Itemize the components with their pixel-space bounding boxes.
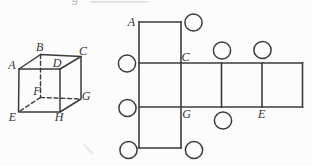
answer-circle — [185, 14, 202, 31]
cube-vertex-label-b: B — [36, 41, 43, 53]
cropped-text-artifact: g — [71, 0, 83, 6]
cube-vertex-label-e: E — [9, 111, 16, 123]
answer-circle — [119, 99, 136, 116]
scan-streak-artifact — [90, 1, 148, 3]
cube-vertex-label-d: D — [53, 57, 62, 69]
answer-circle — [214, 112, 231, 129]
net-corner-label-g: G — [182, 108, 191, 120]
cube-vertex-label-a: A — [8, 59, 15, 71]
textbook-figure: A B C D E F G H A C G E g — [0, 0, 312, 166]
cube-vertex-label-c: C — [79, 45, 87, 57]
cube-vertex-label-h: H — [55, 111, 64, 123]
net-corner-label-c: C — [181, 51, 189, 63]
net-corner-label-e: E — [258, 108, 265, 120]
cube-vertex-label-g: G — [82, 90, 91, 102]
answer-circle — [254, 41, 271, 58]
answer-circle — [185, 141, 202, 158]
cube-vertex-label-f: F — [33, 85, 40, 97]
cube-solid-edges — [19, 55, 82, 113]
cropped-glyph: g — [72, 0, 79, 6]
answer-circle — [213, 42, 230, 59]
answer-circle — [120, 141, 137, 158]
answer-circle — [118, 55, 135, 72]
figure-canvas — [0, 0, 312, 166]
net-corner-label-a: A — [128, 16, 135, 28]
answer-circles — [118, 14, 271, 159]
